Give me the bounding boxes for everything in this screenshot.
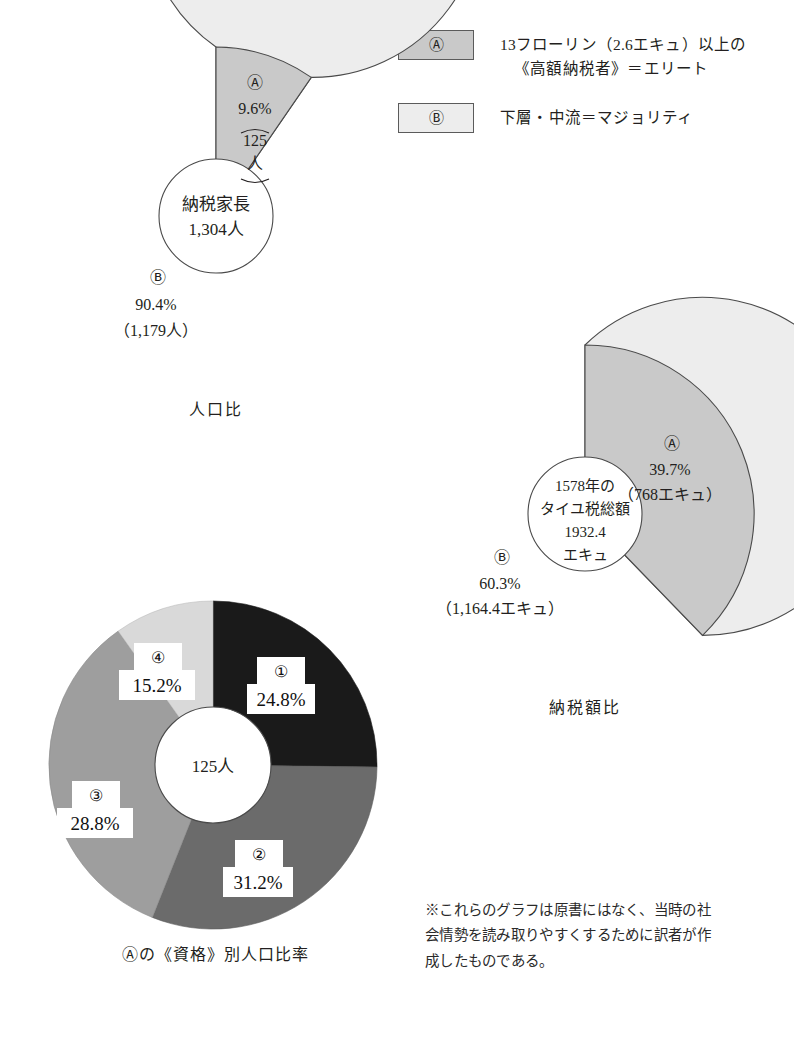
hub-line2: 1,304人 — [188, 220, 243, 239]
legend-text-a-line1: 13フローリン（2.6エキュ）以上の — [500, 36, 746, 53]
slice-b-marker: Ⓑ — [494, 549, 510, 566]
footnote-line3: 成したものである。 — [425, 949, 745, 974]
chart-taxamount-svg: Ⓐ 39.7% （768エキュ） Ⓑ 60.3% （1,164.4エキュ） 15… — [407, 336, 763, 688]
slice-2-percent: 31.2% — [233, 872, 282, 893]
footnote-line1: ※これらのグラフは原書にはなく、当時の社 — [425, 898, 745, 923]
slice-b-percent: 60.3% — [479, 575, 520, 592]
page-root: Ⓐ 13フローリン（2.6エキュ）以上の 《高額納税者》＝エリート Ⓑ 下層・中… — [0, 0, 794, 1052]
footnote-line2: 会情勢を読み取りやすくするために訳者が作 — [425, 923, 745, 948]
slice-1-label: ① 24.8% — [247, 657, 315, 714]
hub-line2: タイユ税総額 — [540, 501, 630, 517]
legend-item-b: Ⓑ 下層・中流＝マジョリティ — [398, 103, 768, 133]
legend-marker-a: Ⓐ — [429, 38, 444, 53]
slice-3-marker: ③ — [89, 787, 103, 804]
slice-2-marker: ② — [252, 846, 266, 863]
slice-a-marker: Ⓐ — [247, 74, 263, 91]
chart-population-svg: Ⓐ 9.6% 125 人 Ⓑ 90.4% （1,179人） 納税家長 1,304… — [38, 38, 394, 390]
slice-1-percent: 24.8% — [256, 689, 305, 710]
slice-a-marker: Ⓐ — [664, 435, 680, 452]
chart-qualify-svg: 125人 ① 24.8% ② 31.2% ③ 28.8% — [35, 595, 395, 935]
chart-qualify-caption: Ⓐの《資格》別人口比率 — [35, 941, 395, 965]
legend-marker-b: Ⓑ — [429, 111, 444, 126]
chart-qualify: 125人 ① 24.8% ② 31.2% ③ 28.8% — [35, 595, 399, 965]
chart-taxamount-caption: 納税額比 — [407, 694, 763, 718]
slice-3-percent: 28.8% — [70, 813, 119, 834]
slice-b-percent: 90.4% — [135, 296, 176, 313]
slice-a-percent: 39.7% — [649, 461, 690, 478]
slice-a-percent: 9.6% — [238, 100, 271, 117]
hub-line4: エキュ — [563, 547, 608, 563]
slice-a-count-line2: 人 — [247, 155, 263, 172]
legend-text-a-line2: 《高額納税者》＝エリート — [500, 57, 746, 81]
hub-line1: 1578年の — [555, 478, 615, 494]
legend: Ⓐ 13フローリン（2.6エキュ）以上の 《高額納税者》＝エリート Ⓑ 下層・中… — [398, 30, 768, 155]
slice-b-count: （1,179人） — [114, 322, 198, 339]
slice-b-amount: （1,164.4エキュ） — [436, 600, 564, 617]
legend-text-b-line1: 下層・中流＝マジョリティ — [500, 109, 693, 126]
chart-taxamount: Ⓐ 39.7% （768エキュ） Ⓑ 60.3% （1,164.4エキュ） 15… — [407, 336, 771, 718]
slice-4-percent: 15.2% — [132, 675, 181, 696]
hub-line1: 125人 — [192, 757, 235, 776]
slice-a-amount: （768エキュ） — [618, 486, 722, 503]
slice-b-marker: Ⓑ — [150, 269, 166, 286]
legend-item-a: Ⓐ 13フローリン（2.6エキュ）以上の 《高額納税者》＝エリート — [398, 30, 768, 81]
legend-swatch-b: Ⓑ — [398, 103, 474, 133]
footnote: ※これらのグラフは原書にはなく、当時の社 会情勢を読み取りやすくするために訳者が… — [425, 898, 745, 974]
chart-population: Ⓐ 9.6% 125 人 Ⓑ 90.4% （1,179人） 納税家長 1,304… — [38, 38, 402, 420]
legend-text-a: 13フローリン（2.6エキュ）以上の 《高額納税者》＝エリート — [500, 30, 746, 81]
slice-1-marker: ① — [274, 663, 288, 680]
hub-line3: 1932.4 — [564, 524, 606, 540]
hub-line1: 納税家長 — [182, 195, 250, 214]
slice-4-marker: ④ — [151, 649, 165, 666]
pie-hub — [159, 159, 273, 273]
chart-population-caption: 人口比 — [38, 396, 394, 420]
slice-a-count-line1: 125 — [243, 132, 267, 149]
legend-text-b: 下層・中流＝マジョリティ — [500, 103, 693, 130]
